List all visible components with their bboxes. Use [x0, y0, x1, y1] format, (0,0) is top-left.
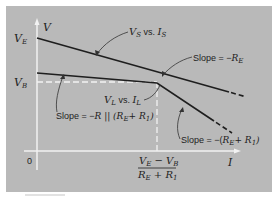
vs-label-leader: [97, 32, 128, 54]
load-line-diagram: V I 0 VE VB VE − VB RE + R1 VS vs. IS VL…: [0, 0, 278, 198]
ve-tick-label: VE: [14, 32, 27, 46]
slope-re-annotation: Slope = −RE: [193, 53, 243, 65]
vl-vs-il-label: VL vs. IL: [104, 94, 141, 107]
vl-vs-il-dashed-extension: [216, 122, 232, 133]
vs-vs-is-label: VS vs. IS: [129, 26, 167, 39]
y-axis-arrow-icon: [35, 18, 40, 25]
x-tick-denominator: RE + R1: [137, 169, 177, 182]
origin-label: 0: [27, 156, 32, 166]
y-axis-label: V: [43, 21, 52, 34]
slope-re-leader: [163, 57, 192, 75]
x-axis-arrow-icon: [234, 149, 241, 154]
slope-re-r1-leader-arrow-icon: [179, 107, 184, 112]
vs-vs-is-dashed-extension: [231, 93, 246, 97]
vs-vs-is-line: [37, 38, 229, 92]
slope-re-r1-annotation: Slope = −(RE+ R1): [181, 135, 260, 147]
x-axis-label: I: [227, 156, 233, 169]
x-tick-numerator: VE − VB: [139, 155, 179, 168]
slope-parallel-annotation: Slope = −R || (RE+ R1): [56, 111, 154, 123]
vb-tick-label: VB: [14, 76, 27, 90]
